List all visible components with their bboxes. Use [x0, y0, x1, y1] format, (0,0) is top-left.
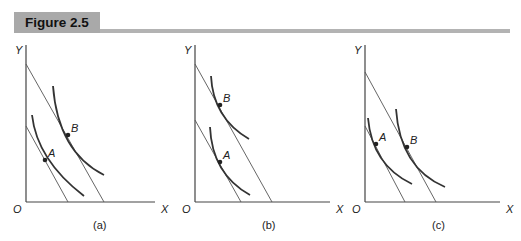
point-a	[218, 160, 223, 165]
origin-label: O	[13, 203, 22, 215]
point-label-a: A	[222, 149, 230, 161]
origin-label: O	[182, 203, 191, 215]
budget-line	[26, 126, 68, 202]
panel-b: YXO(b)AB	[182, 44, 344, 231]
panel-a: YXO(a)AB	[13, 44, 169, 231]
x-axis-label: X	[335, 203, 344, 215]
x-axis-label: X	[160, 203, 169, 215]
indifference-curve	[211, 76, 249, 139]
panel-caption: (b)	[262, 219, 275, 231]
origin-label: O	[352, 203, 361, 215]
point-label-b: B	[71, 122, 78, 134]
point-label-a: A	[378, 131, 386, 143]
point-b	[218, 103, 223, 108]
point-b	[66, 133, 71, 138]
point-a	[374, 142, 379, 147]
point-label-b: B	[223, 92, 230, 104]
x-axis-label: X	[505, 203, 514, 215]
indifference-curve	[53, 86, 104, 175]
panel-caption: (a)	[93, 219, 106, 231]
y-axis-label: Y	[15, 44, 23, 56]
point-b	[405, 145, 410, 150]
panel-caption: (c)	[432, 219, 445, 231]
point-a	[43, 158, 48, 163]
budget-line	[195, 64, 272, 202]
point-label-b: B	[410, 134, 417, 146]
indifference-curve	[396, 109, 445, 187]
point-label-a: A	[47, 147, 55, 159]
indifference-curve	[210, 127, 250, 195]
y-axis-label: Y	[354, 44, 362, 56]
diagram-canvas: YXO(a)ABYXO(b)ABYXO(c)AB	[0, 0, 521, 241]
y-axis-label: Y	[184, 44, 192, 56]
panel-c: YXO(c)AB	[352, 44, 514, 231]
